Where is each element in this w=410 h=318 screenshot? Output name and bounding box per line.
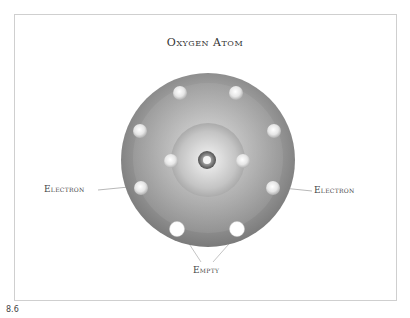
electron-label-left: Electron <box>44 184 85 194</box>
electron-outer-5 <box>134 181 148 195</box>
electron-outer-3 <box>133 124 147 138</box>
electron-label-right: Electron <box>314 185 355 195</box>
nucleus-highlight <box>203 156 211 164</box>
electron-outer-6 <box>266 181 280 195</box>
figure-number: 8.6 <box>6 305 19 314</box>
empty-slot-left <box>170 222 185 237</box>
empty-slot-right <box>230 222 245 237</box>
empty-label: Empty <box>193 265 219 275</box>
electron-outer-4 <box>267 124 281 138</box>
electron-inner-left <box>164 154 178 168</box>
electron-outer-2 <box>229 86 243 100</box>
electron-outer-1 <box>173 86 187 100</box>
electron-inner-right <box>236 154 250 168</box>
